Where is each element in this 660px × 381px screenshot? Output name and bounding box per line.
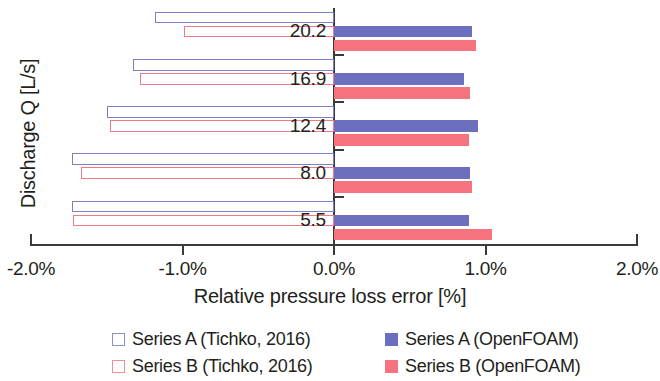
bar [334,134,469,146]
x-axis-tick-label: 1.0% [464,258,506,280]
category-label: 20.2 [290,20,326,42]
legend-column-right: Series A (OpenFOAM)Series B (OpenFOAM) [385,326,580,380]
x-axis-tick-label: -2.0% [7,258,55,280]
bar [334,167,470,179]
bar-group: 8.0 [31,150,637,197]
bar [334,229,492,241]
bar [334,40,476,52]
legend-swatch-icon [385,360,398,373]
x-axis-tick [636,234,638,246]
bar [334,215,469,227]
legend-label: Series A (OpenFOAM) [405,329,578,350]
category-label: 5.5 [300,209,326,231]
category-label: 8.0 [300,162,326,184]
legend-item[interactable]: Series A (Tichko, 2016) [112,326,313,353]
category-label: 16.9 [290,68,326,90]
bar [334,120,478,132]
legend-swatch-icon [112,360,125,373]
bar [72,153,334,165]
bar-group: 12.4 [31,102,637,149]
x-axis-tick-label: 0.0% [313,258,355,280]
category-label: 12.4 [290,115,326,137]
bar-group: 5.5 [31,197,637,244]
x-axis-tick [182,244,184,255]
bar [81,167,334,179]
bar [73,215,334,227]
legend-swatch-icon [385,333,398,346]
bar [334,87,470,99]
legend-label: Series B (Tichko, 2016) [132,356,313,377]
legend-item[interactable]: Series B (OpenFOAM) [385,353,580,380]
bar [334,26,472,38]
chart-legend: Series A (Tichko, 2016)Series B (Tichko,… [0,326,660,381]
bar [72,201,334,213]
bar-group: 20.2 [31,8,637,55]
bar-chart-figure: Discharge Q [L/s] 20.216.912.48.05.5 Rel… [0,0,660,381]
legend-item[interactable]: Series B (Tichko, 2016) [112,353,313,380]
plot-area: 20.216.912.48.05.5 [31,8,637,244]
legend-label: Series B (OpenFOAM) [405,356,580,377]
x-axis-tick [333,244,335,255]
x-axis-title: Relative pressure loss error [%] [0,285,660,308]
x-axis-tick [485,244,487,255]
legend-item[interactable]: Series A (OpenFOAM) [385,326,580,353]
bar-group: 16.9 [31,55,637,102]
x-axis-tick-label: -1.0% [158,258,206,280]
legend-swatch-icon [112,333,125,346]
x-axis-tick-label: 2.0% [616,258,658,280]
x-axis-tick [30,234,32,246]
bar [334,181,472,193]
legend-column-left: Series A (Tichko, 2016)Series B (Tichko,… [112,326,313,380]
legend-label: Series A (Tichko, 2016) [132,329,311,350]
bar [334,73,464,85]
x-axis [31,244,637,258]
